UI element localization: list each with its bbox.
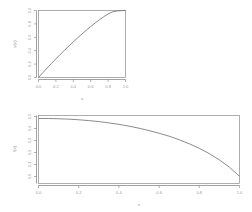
top-x-ticklabel: 1.0 [123,84,129,89]
top-x-axis-title: x [81,96,84,101]
top-curve [39,11,126,78]
bottom-curve [39,118,240,176]
top-y-ticklabel: 0.6 [27,34,32,40]
top-y-axis: 0.0 0.2 0.4 0.6 0.8 1.0 y(x) [12,7,37,80]
top-y-ticklabel: 0.2 [27,61,32,67]
bottom-x-axis: 0.0 0.2 0.4 0.6 0.8 1.0 x [36,186,243,208]
bottom-y-axis-title: f(x) [12,145,17,152]
bottom-y-ticklabel: 1.5 [27,113,32,119]
top-x-ticklabel: 0.8 [105,84,111,89]
top-x-ticklabel: 0.6 [88,84,94,89]
bottom-plot-frame [39,116,240,184]
chart-panel-top: 0.0 0.2 0.4 0.6 0.8 1.0 x 0.0 0.2 0.4 0. [0,0,252,106]
bottom-y-ticklabel: 1.1 [27,161,32,167]
top-y-ticklabel: 1.0 [27,7,32,13]
chart-panel-bottom: 0.0 0.2 0.4 0.6 0.8 1.0 x 1.5 1.4 1.3 1. [0,106,252,212]
bottom-y-ticklabel: 1.2 [27,149,32,155]
bottom-x-ticklabel: 0.4 [116,190,122,195]
bottom-y-ticklabel: 1.3 [27,137,32,143]
top-y-ticklabel: 0.8 [27,20,32,26]
top-x-ticklabel: 0.0 [36,84,42,89]
bottom-x-ticklabel: 0.2 [76,190,82,195]
bottom-x-ticklabel: 0.8 [196,190,202,195]
bottom-plot-svg: 0.0 0.2 0.4 0.6 0.8 1.0 x 1.5 1.4 1.3 1. [0,106,252,212]
top-x-ticklabel: 0.4 [70,84,76,89]
top-plot-svg: 0.0 0.2 0.4 0.6 0.8 1.0 x 0.0 0.2 0.4 0. [0,0,252,106]
bottom-x-ticklabel: 0.0 [36,190,42,195]
top-x-axis: 0.0 0.2 0.4 0.6 0.8 1.0 x [36,80,129,102]
top-plot-frame [39,11,126,78]
top-y-ticklabel: 0.0 [27,74,32,80]
bottom-x-ticklabel: 0.6 [156,190,162,195]
figure-canvas: 0.0 0.2 0.4 0.6 0.8 1.0 x 0.0 0.2 0.4 0. [0,0,252,212]
top-y-ticklabel: 0.4 [27,47,32,53]
bottom-y-ticklabel: 1.4 [27,125,32,131]
top-x-ticklabel: 0.2 [53,84,59,89]
bottom-y-ticklabel: 1.0 [27,173,32,179]
bottom-x-axis-title: x [138,202,141,207]
bottom-x-ticklabel: 1.0 [237,190,243,195]
top-y-axis-title: y(x) [12,40,17,48]
bottom-y-axis: 1.5 1.4 1.3 1.2 1.1 1.0 f(x) [12,113,37,184]
